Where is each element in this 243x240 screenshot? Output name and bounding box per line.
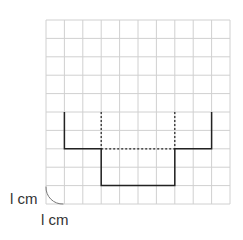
scale-arc (46, 187, 63, 204)
scale-label-horizontal: l cm (41, 212, 69, 227)
scale-label-vertical: l cm (10, 191, 38, 206)
